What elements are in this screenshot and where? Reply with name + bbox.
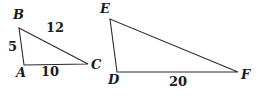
vertex-label-f: F: [241, 68, 250, 81]
vertex-label-d: D: [108, 73, 119, 86]
vertex-label-b: B: [13, 8, 24, 21]
vertex-label-e: E: [100, 2, 110, 15]
triangles-canvas: [0, 0, 261, 100]
side-label-bc: 12: [46, 21, 64, 34]
geometry-figure: B A C 5 12 10 E D F 20: [0, 0, 261, 100]
triangle-def-outline: [110, 19, 238, 72]
vertex-label-a: A: [16, 66, 26, 79]
side-label-df: 20: [169, 75, 187, 88]
side-label-ab: 5: [8, 40, 17, 53]
side-label-ac: 10: [41, 65, 59, 78]
vertex-label-c: C: [91, 58, 101, 71]
